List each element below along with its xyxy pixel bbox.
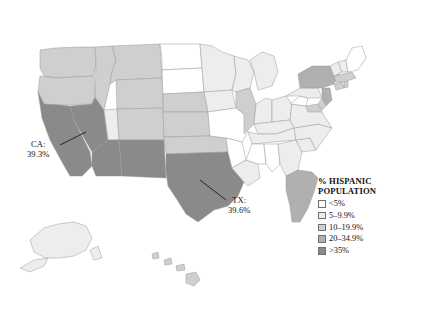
legend-swatch-icon-2 (318, 224, 326, 232)
legend-title-line1: % HISPANIC (318, 176, 418, 186)
legend-swatch-icon-4 (318, 247, 326, 255)
state-NM[interactable] (119, 140, 166, 178)
legend-label-3: 20–34.9% (329, 233, 363, 244)
callout-tx: TX: 39.6% (228, 196, 250, 215)
legend-title-line2: POPULATION (318, 186, 418, 196)
state-MT[interactable] (110, 44, 162, 84)
callout-ca-value: 39.3% (27, 150, 49, 160)
state-OH[interactable] (272, 96, 292, 122)
state-MN[interactable] (200, 44, 236, 92)
state-KS[interactable] (163, 112, 210, 137)
state-OK[interactable] (164, 136, 228, 154)
state-SD[interactable] (162, 68, 204, 94)
state-HI-kauai[interactable] (152, 252, 159, 259)
state-PA[interactable] (286, 88, 322, 98)
us-hispanic-population-map: CA: 39.3% TX: 39.6% % HISPANIC POPULATIO… (0, 0, 423, 312)
map-legend: % HISPANIC POPULATION <5% 5–9.9% 10–19.9… (318, 176, 418, 257)
state-AK-panhandle[interactable] (90, 246, 102, 260)
legend-item-4[interactable]: >35% (318, 245, 418, 256)
state-ND[interactable] (160, 44, 202, 70)
legend-list: <5% 5–9.9% 10–19.9% 20–34.9% >35% (318, 198, 418, 256)
legend-item-1[interactable]: 5–9.9% (318, 210, 418, 221)
legend-label-0: <5% (329, 198, 345, 209)
state-HI-oahu[interactable] (164, 258, 172, 265)
state-IN[interactable] (254, 98, 272, 124)
legend-item-3[interactable]: 20–34.9% (318, 233, 418, 244)
state-HI-bigisland[interactable] (186, 272, 200, 286)
state-FL[interactable] (286, 170, 318, 222)
state-AK-aleutians[interactable] (20, 258, 48, 272)
state-MS[interactable] (246, 144, 266, 164)
state-WA[interactable] (40, 47, 96, 78)
legend-item-0[interactable]: <5% (318, 198, 418, 209)
state-HI-maui[interactable] (176, 264, 185, 271)
state-ME[interactable] (346, 46, 366, 72)
state-AL[interactable] (264, 144, 280, 172)
legend-item-2[interactable]: 10–19.9% (318, 222, 418, 233)
callout-tx-value: 39.6% (228, 206, 250, 216)
state-CO[interactable] (117, 108, 164, 140)
state-NE[interactable] (163, 92, 208, 112)
state-MI[interactable] (250, 52, 278, 90)
callout-ca: CA: 39.3% (27, 140, 49, 159)
legend-swatch-icon-1 (318, 212, 326, 220)
state-AK[interactable] (30, 222, 92, 258)
legend-label-1: 5–9.9% (329, 210, 355, 221)
legend-swatch-icon-0 (318, 200, 326, 208)
legend-title: % HISPANIC POPULATION (318, 176, 418, 196)
state-OR[interactable] (38, 76, 95, 105)
state-CT[interactable] (334, 82, 344, 90)
map-svg (0, 0, 423, 312)
state-WY[interactable] (116, 78, 163, 109)
legend-label-2: 10–19.9% (329, 222, 363, 233)
legend-swatch-icon-3 (318, 235, 326, 243)
legend-label-4: >35% (329, 245, 349, 256)
